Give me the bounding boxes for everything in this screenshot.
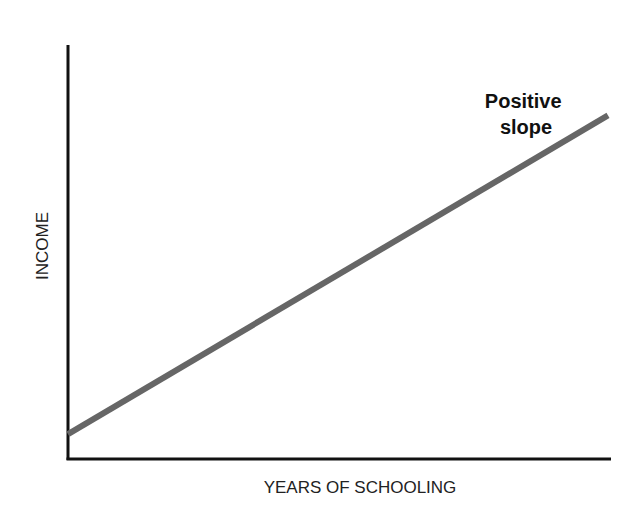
y-axis-label: INCOME bbox=[33, 212, 52, 280]
annotation-label: Positive slope bbox=[485, 90, 567, 138]
positive-slope-line bbox=[68, 115, 608, 434]
annotation-line-2: slope bbox=[500, 116, 552, 138]
annotation-line-1: Positive bbox=[485, 90, 562, 112]
slope-chart: Positive slope INCOME YEARS OF SCHOOLING bbox=[0, 0, 638, 519]
x-axis-label: YEARS OF SCHOOLING bbox=[264, 478, 457, 497]
